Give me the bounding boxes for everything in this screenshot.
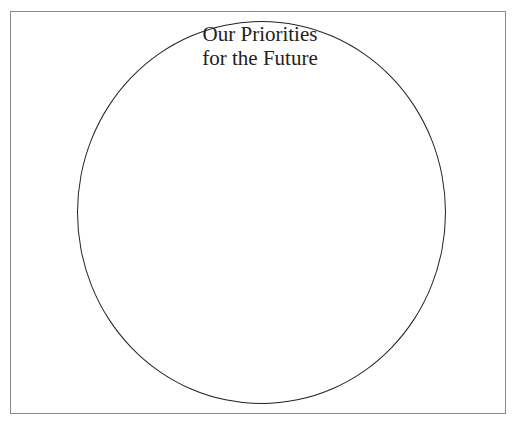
priorities-circle [77, 21, 446, 404]
title-line-2: for the Future [180, 46, 340, 70]
title-line-1: Our Priorities [180, 22, 340, 46]
diagram-title: Our Priorities for the Future [180, 22, 340, 70]
